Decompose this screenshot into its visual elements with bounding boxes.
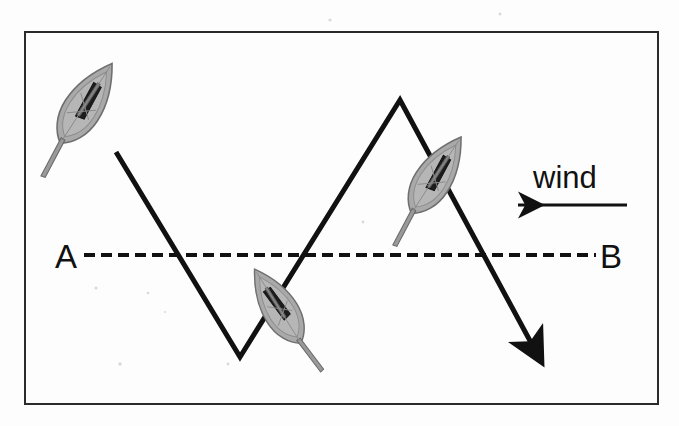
tacking-course-path (116, 100, 533, 357)
paper-speck (328, 18, 331, 21)
paper-speck (499, 13, 502, 16)
sailboat-1 (24, 53, 128, 185)
paper-speck (164, 311, 166, 313)
wind-label: wind (533, 162, 597, 193)
paper-speck (227, 363, 230, 366)
point-b-label: B (600, 240, 622, 273)
paper-speck (362, 221, 365, 224)
figure-border (25, 32, 658, 404)
paper-speck (147, 292, 150, 295)
diagram-canvas: .boat-hull { fill: #a9a9a9; stroke: #6f6… (0, 0, 679, 426)
sailing-diagram: .boat-hull { fill: #a9a9a9; stroke: #6f6… (0, 0, 679, 426)
paper-speck (94, 286, 97, 289)
point-a-label: A (55, 240, 77, 273)
paper-speck (118, 362, 121, 365)
